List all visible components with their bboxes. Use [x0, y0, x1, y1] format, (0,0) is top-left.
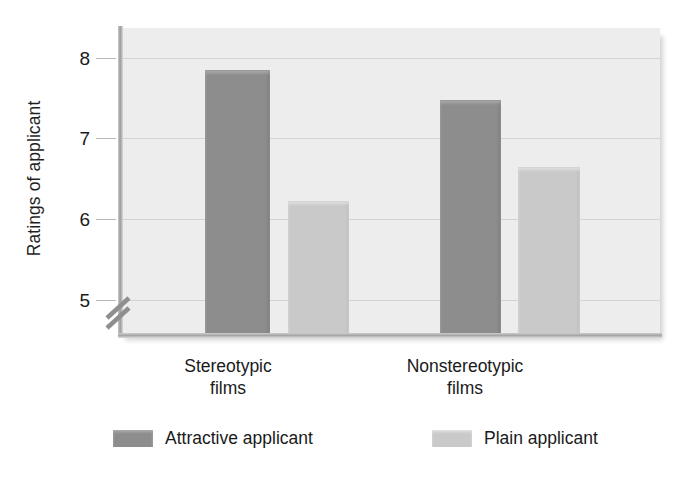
legend-label-attractive: Attractive applicant — [165, 428, 313, 449]
gridline-8 — [118, 58, 660, 59]
y-axis-tick-labels: 8 7 6 5 — [58, 0, 90, 360]
plot-area — [118, 28, 660, 336]
y-axis-title: Ratings of applicant — [24, 59, 45, 299]
bar-stereotypic-plain — [288, 201, 349, 336]
bar-nonstereotypic-plain — [518, 167, 580, 336]
y-tick-label-8: 8 — [64, 49, 90, 68]
plot-inner — [118, 28, 660, 336]
legend-item-plain-applicant: Plain applicant — [432, 428, 598, 449]
chart-legend: Attractive applicant Plain applicant — [0, 428, 683, 458]
bar-stereotypic-attractive — [205, 70, 270, 336]
y-tick-label-7: 7 — [64, 129, 90, 148]
y-tick-mark-7 — [96, 138, 116, 139]
legend-item-attractive-applicant: Attractive applicant — [113, 428, 313, 449]
category-line-2: films — [370, 378, 560, 400]
x-category-label-nonstereotypic: Nonstereotypic films — [370, 356, 560, 400]
legend-swatch-icon-attractive — [113, 430, 153, 447]
x-axis-line — [118, 333, 662, 338]
y-tick-label-6: 6 — [64, 210, 90, 229]
category-line-2: films — [148, 378, 308, 400]
legend-label-plain: Plain applicant — [484, 428, 598, 449]
y-tick-label-5: 5 — [64, 291, 90, 310]
category-line-1: Stereotypic — [148, 356, 308, 378]
bar-chart-figure: Ratings of applicant 8 7 6 5 — [0, 0, 683, 493]
legend-swatch-icon-plain — [432, 430, 472, 447]
bar-nonstereotypic-attractive — [440, 100, 501, 336]
axis-break-icon — [103, 292, 139, 332]
y-tick-mark-8 — [96, 58, 116, 59]
category-line-1: Nonstereotypic — [370, 356, 560, 378]
x-category-label-stereotypic: Stereotypic films — [148, 356, 308, 400]
y-tick-mark-6 — [96, 219, 116, 220]
gridline-7 — [118, 138, 660, 139]
